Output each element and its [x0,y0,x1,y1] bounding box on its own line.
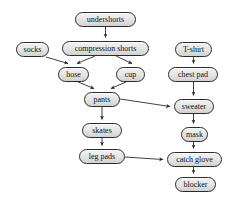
node-leg-pads[interactable]: leg pads [79,149,125,164]
diagram-canvas: undershortssockscompression shortsT-shir… [0,0,234,209]
node-catch-glove[interactable]: catch glove [167,152,222,167]
node-label-mask: mask [186,130,203,138]
node-label-leg-pads: leg pads [89,152,115,160]
node-hose[interactable]: hose [58,67,89,82]
node-compression-shorts[interactable]: compression shorts [62,41,149,56]
node-mask[interactable]: mask [181,127,208,142]
edge-compression-shorts-to-cup [116,56,132,64]
node-skates[interactable]: skates [82,123,122,138]
edge-socks-to-hose [46,57,68,64]
node-label-undershorts: undershorts [87,15,124,23]
edge-pants-to-sweater [120,99,170,107]
node-label-catch-glove: catch glove [176,155,213,163]
edge-cup-to-pants [111,82,126,89]
node-label-chest-pad: chest pad [178,70,208,78]
edge-compression-shorts-to-hose [77,56,95,64]
node-undershorts[interactable]: undershorts [75,12,136,27]
node-label-cup: cup [125,70,137,78]
node-label-skates: skates [92,126,112,134]
node-label-pants: pants [94,95,111,103]
node-label-socks: socks [24,45,42,53]
node-label-t-shirt: T-shirt [183,45,204,53]
node-cup[interactable]: cup [116,67,145,82]
node-chest-pad[interactable]: chest pad [168,67,218,82]
edge-leg-pads-to-catch-glove [125,157,163,160]
node-label-blocker: blocker [184,180,208,188]
node-pants[interactable]: pants [84,92,120,107]
node-label-compression-shorts: compression shorts [75,44,137,52]
node-label-sweater: sweater [182,102,206,110]
node-label-hose: hose [66,70,81,78]
node-t-shirt[interactable]: T-shirt [175,42,212,57]
node-socks[interactable]: socks [16,42,49,57]
node-sweater[interactable]: sweater [174,99,214,114]
edge-hose-to-pants [78,82,94,89]
node-blocker[interactable]: blocker [175,177,216,192]
